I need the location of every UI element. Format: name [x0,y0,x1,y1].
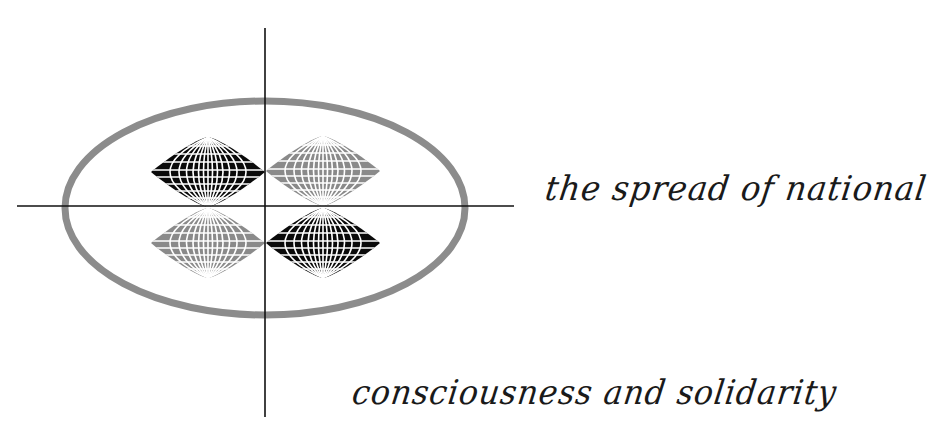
caption-line-1: the spread of national [543,168,929,208]
globe-top-right [263,131,383,211]
globe-bottom-right [263,203,383,283]
globe-top-left [148,132,268,212]
caption-line-2: consciousness and solidarity [350,372,840,412]
globe-bottom-left [148,203,268,283]
